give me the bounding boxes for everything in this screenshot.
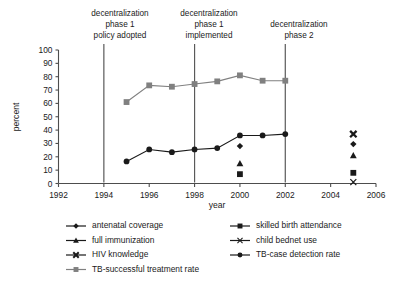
legend-label: TB-case detection rate (256, 249, 341, 259)
annotation-decentralization-phase-1-policy-adopted: decentralization phase 1 policy adopted (91, 9, 149, 40)
marker-x-bold (350, 131, 356, 137)
legend-item-skilled-birth-attendance[interactable]: skilled birth attendance (230, 220, 342, 230)
annotation-decentralization-phase-2: decentralization phase 2 (270, 20, 328, 40)
x-axis-tick-labels: 19921994199619982000200220042006 (49, 190, 385, 200)
chart-legend: antenatal coveragefull immunizationHIV k… (66, 220, 342, 274)
marker-square (260, 78, 266, 84)
legend-label: TB-successful treatment rate (92, 264, 199, 274)
y-axis-tick-labels: 0102030405060708090100 (39, 45, 53, 189)
x-tick-label: 2006 (367, 190, 386, 200)
series-antenatal-coverage (237, 141, 357, 149)
series-skilled-birth-attendance (237, 170, 356, 177)
y-tick-label: 0 (48, 179, 53, 189)
annotation-1-line-2: phase 1 (105, 20, 135, 29)
y-tick-label: 90 (43, 58, 53, 68)
marker-square (237, 72, 243, 78)
marker-square (350, 170, 356, 176)
y-tick-label: 70 (43, 85, 53, 95)
marker-circle (214, 145, 220, 151)
annotation-1-line-3: policy adopted (94, 31, 147, 40)
y-axis: 0102030405060708090100 percent (11, 45, 59, 189)
series-tb-successful-treatment-rate (124, 72, 289, 105)
marker-diamond (237, 143, 243, 149)
x-tick-label: 2004 (321, 190, 340, 200)
y-tick-label: 60 (43, 98, 53, 108)
annotation-2-line-3: implemented (186, 31, 233, 40)
marker-circle (260, 133, 266, 139)
series-hiv-knowledge (350, 131, 356, 137)
marker-square (214, 78, 220, 84)
marker-square (74, 267, 79, 272)
marker-circle (237, 133, 243, 139)
marker-square (192, 81, 198, 87)
annotation-3-line-1: decentralization (270, 20, 328, 29)
series-child-bednet-use (350, 179, 356, 185)
legend-label: skilled birth attendance (256, 220, 342, 230)
marker-x (350, 179, 356, 185)
marker-circle (238, 253, 243, 258)
y-tick-label: 10 (43, 165, 53, 175)
marker-square (238, 224, 243, 229)
marker-circle (282, 131, 288, 137)
chart-svg: decentralization phase 1 policy adopted … (0, 0, 394, 284)
annotation-3-line-2: phase 2 (284, 31, 314, 40)
marker-circle (124, 159, 130, 165)
legend-label: full immunization (92, 235, 155, 245)
legend-item-antenatal-coverage[interactable]: antenatal coverage (66, 220, 164, 230)
annotation-1-line-1: decentralization (91, 9, 149, 18)
marker-circle (146, 147, 152, 153)
marker-square (169, 84, 175, 90)
y-tick-label: 40 (43, 125, 53, 135)
x-tick-label: 1998 (185, 190, 204, 200)
chart-figure: decentralization phase 1 policy adopted … (0, 0, 394, 284)
marker-square (146, 82, 152, 88)
y-tick-label: 50 (43, 112, 53, 122)
x-tick-label: 2000 (231, 190, 250, 200)
data-series-layer (124, 72, 357, 185)
legend-item-hiv-knowledge[interactable]: HIV knowledge (66, 249, 149, 259)
legend-label: antenatal coverage (92, 220, 164, 230)
event-vertical-lines (104, 44, 285, 183)
annotation-decentralization-phase-1-implemented: decentralization phase 1 implemented (180, 9, 238, 40)
legend-item-tb-successful-treatment-rate[interactable]: TB-successful treatment rate (66, 264, 199, 274)
marker-diamond (350, 141, 356, 147)
y-tick-label: 100 (39, 45, 53, 55)
marker-square (237, 171, 243, 177)
y-tick-label: 20 (43, 152, 53, 162)
legend-item-tb-case-detection-rate[interactable]: TB-case detection rate (230, 249, 341, 259)
x-tick-label: 1994 (95, 190, 114, 200)
series-tb-case-detection-rate (124, 131, 289, 164)
marker-square (282, 78, 288, 84)
marker-triangle (237, 160, 244, 166)
marker-diamond (73, 223, 78, 228)
series-full-immunization (237, 152, 357, 166)
legend-item-full-immunization[interactable]: full immunization (66, 235, 155, 245)
x-tick-label: 1996 (140, 190, 159, 200)
marker-circle (169, 149, 175, 155)
x-tick-label: 2002 (276, 190, 295, 200)
annotation-2-line-1: decentralization (180, 9, 238, 18)
legend-item-child-bednet-use[interactable]: child bednet use (230, 235, 317, 245)
legend-label: child bednet use (256, 235, 317, 245)
x-axis-title: year (209, 200, 226, 210)
y-axis-title: percent (11, 102, 21, 131)
y-tick-label: 80 (43, 72, 53, 82)
marker-square (124, 99, 130, 105)
marker-circle (192, 147, 198, 153)
y-tick-label: 30 (43, 138, 53, 148)
legend-label: HIV knowledge (92, 249, 149, 259)
x-tick-label: 1992 (49, 190, 68, 200)
marker-triangle (350, 152, 357, 158)
x-axis: 19921994199619982000200220042006 year (49, 184, 385, 211)
annotation-2-line-2: phase 1 (194, 20, 224, 29)
